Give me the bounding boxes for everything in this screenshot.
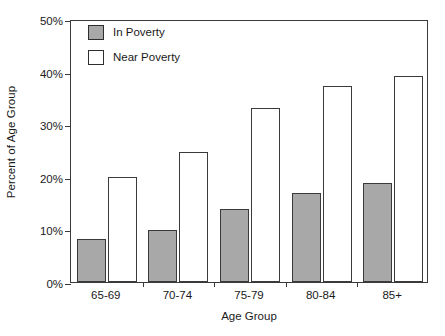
y-axis-tick-label: 20%	[40, 173, 63, 185]
legend-label: Near Poverty	[113, 51, 180, 63]
bar-65-69-in-poverty	[77, 239, 106, 282]
chart-legend: In PovertyNear Poverty	[88, 21, 180, 71]
bar-chart: Percent of Age Group 0%10%20%30%40%50% A…	[0, 0, 445, 336]
bar-85plus-near-poverty	[394, 76, 423, 282]
y-axis-tick-label: 40%	[40, 68, 63, 80]
bar-75-79-near-poverty	[251, 108, 280, 282]
bar-70-74-near-poverty	[179, 152, 208, 282]
x-axis-tick-mark	[286, 282, 287, 287]
legend-item: Near Poverty	[88, 46, 180, 68]
legend-color-swatch	[88, 25, 104, 40]
x-axis-category-label: 80-84	[306, 289, 335, 301]
x-axis-category-label: 85+	[382, 289, 402, 301]
x-axis-title: Age Group	[70, 310, 428, 322]
legend-label: In Poverty	[113, 26, 165, 38]
x-axis-category-label: 70-74	[163, 289, 192, 301]
bar-65-69-near-poverty	[108, 177, 137, 282]
x-axis-tick-mark	[357, 282, 358, 287]
y-axis-tick-mark	[65, 126, 71, 127]
x-axis-category-label: 75-79	[234, 289, 263, 301]
y-axis-title-label: Percent of Age Group	[5, 85, 17, 198]
legend-color-swatch	[88, 50, 104, 65]
y-axis-tick-label: 0%	[46, 278, 63, 290]
y-axis-tick-label: 30%	[40, 120, 63, 132]
y-axis-tick-mark	[65, 284, 71, 285]
bar-80-84-near-poverty	[323, 86, 352, 282]
y-axis-title: Percent of Age Group	[0, 0, 22, 283]
y-axis-tick-mark	[65, 231, 71, 232]
bar-80-84-in-poverty	[292, 193, 321, 282]
y-axis-tick-mark	[65, 21, 71, 22]
bar-75-79-in-poverty	[220, 209, 249, 282]
bar-85plus-in-poverty	[363, 183, 392, 282]
y-axis-tick-mark	[65, 74, 71, 75]
x-axis-tick-mark	[143, 282, 144, 287]
y-axis-tick-label: 50%	[40, 15, 63, 27]
legend-item: In Poverty	[88, 21, 180, 43]
x-axis-category-label: 65-69	[91, 289, 120, 301]
y-axis-tick-mark	[65, 179, 71, 180]
x-axis-title-label: Age Group	[221, 310, 277, 322]
x-axis-tick-mark	[214, 282, 215, 287]
bar-70-74-in-poverty	[148, 230, 177, 282]
y-axis-tick-label: 10%	[40, 225, 63, 237]
